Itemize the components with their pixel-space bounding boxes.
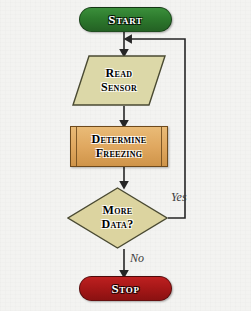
node-stop[interactable]: Stop <box>79 276 172 301</box>
predefined-process-left-bar <box>76 127 77 166</box>
node-determine-freezing-label: Determine Freezing <box>71 127 167 166</box>
predefined-process-right-bar <box>161 127 162 166</box>
node-start-label: Start <box>108 12 142 28</box>
node-stop-label: Stop <box>112 281 140 297</box>
edge-label-yes: Yes <box>171 190 187 205</box>
node-more-data[interactable]: More Data? <box>67 187 168 249</box>
node-start[interactable]: Start <box>79 7 172 32</box>
node-determine-freezing-label-line2: Freezing <box>96 147 143 161</box>
node-determine-freezing[interactable]: Determine Freezing <box>70 126 168 167</box>
node-read-sensor[interactable]: Read Sensor <box>72 55 166 106</box>
node-determine-freezing-label-line1: Determine <box>92 133 147 147</box>
flowchart-nodes: Start Read Sensor Determine Freezing <box>0 0 251 311</box>
flowchart-canvas: Start Read Sensor Determine Freezing <box>0 0 251 311</box>
edge-label-no: No <box>130 251 144 266</box>
diamond-shape <box>67 187 168 249</box>
parallelogram-shape <box>72 55 166 106</box>
